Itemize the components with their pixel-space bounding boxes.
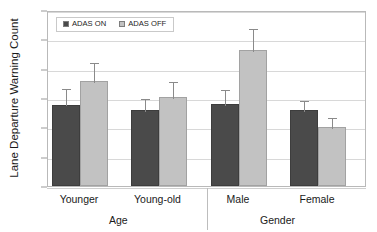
error-bar-cap <box>62 89 71 90</box>
error-bar-stem <box>225 90 226 106</box>
error-bar-cap <box>90 63 99 64</box>
bar-male-adas-off <box>239 50 267 186</box>
legend-label-adas-on: ADAS ON <box>72 20 106 28</box>
bar-female-adas-off <box>318 127 346 186</box>
error-bar-cap <box>169 82 178 83</box>
legend-item-adas-off: ADAS OFF <box>119 20 166 28</box>
error-bar-cap <box>141 99 150 100</box>
error-bar-stem <box>173 82 174 100</box>
error-bar-cap <box>328 118 337 119</box>
error-bar-cap <box>221 90 230 91</box>
error-bar-stem <box>304 101 305 112</box>
error-bar-stem <box>94 63 95 83</box>
bar-younger-adas-off <box>80 81 108 186</box>
bar-male-adas-on <box>211 104 239 186</box>
x-group-label-age: Age <box>109 214 128 226</box>
error-bar-stem <box>253 29 254 52</box>
bar-chart: Lane Departure Warning Count 0.00.51.01.… <box>0 0 377 232</box>
plot-area: ADAS ON ADAS OFF <box>47 11 366 187</box>
x-category-label-younger: Younger <box>60 193 99 205</box>
dark-square-swatch-icon <box>63 21 69 27</box>
legend-label-adas-off: ADAS OFF <box>128 20 166 28</box>
x-category-label-female: Female <box>299 193 334 205</box>
error-bar-stem <box>332 118 333 129</box>
bar-young-old-adas-on <box>131 110 159 186</box>
bar-female-adas-on <box>290 110 318 186</box>
gridline <box>48 41 365 42</box>
x-group-label-gender: Gender <box>260 214 295 226</box>
error-bar-cap <box>300 101 309 102</box>
gridline <box>48 12 365 13</box>
gridline <box>48 71 365 72</box>
bar-young-old-adas-off <box>159 97 187 186</box>
group-separator <box>207 188 208 230</box>
error-bar-stem <box>145 99 146 112</box>
x-category-label-young-old: Young-old <box>134 193 181 205</box>
legend-item-adas-on: ADAS ON <box>63 20 106 28</box>
y-axis-title: Lane Departure Warning Count <box>8 13 20 183</box>
x-category-label-male: Male <box>227 193 250 205</box>
legend: ADAS ON ADAS OFF <box>56 17 174 32</box>
error-bar-cap <box>249 29 258 30</box>
bar-younger-adas-on <box>52 105 80 187</box>
light-square-swatch-icon <box>119 21 125 27</box>
error-bar-stem <box>66 89 67 107</box>
